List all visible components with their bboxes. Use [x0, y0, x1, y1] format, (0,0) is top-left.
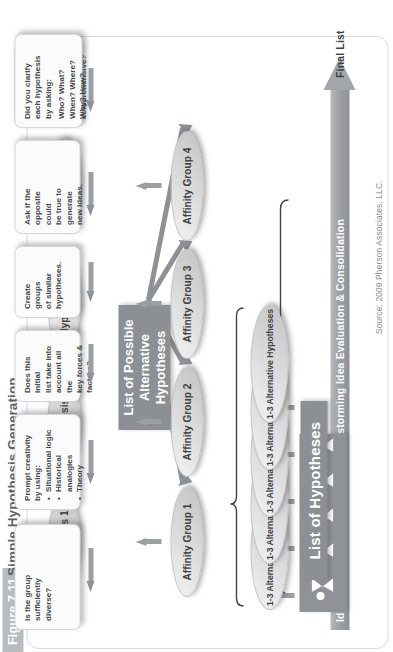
alternative-hypotheses-oval: 1-3 Alternative Hypotheses: [250, 305, 288, 423]
callout-line: hypotheses.: [53, 255, 63, 309]
oval-label: 1-3 Alternative Hypotheses: [264, 309, 274, 419]
callout-line: Create: [22, 255, 32, 309]
callout-line: Prompt creativity: [22, 423, 32, 501]
callout-line: key forces &: [74, 339, 84, 393]
callout-line: by asking:: [43, 43, 53, 119]
oval-label: Affinity Group 3: [181, 266, 192, 343]
callout-line: by using:: [32, 423, 42, 501]
up-arrow: [135, 417, 161, 426]
callout-pointer-arrow: [86, 172, 95, 216]
callout-line: generate: [64, 149, 74, 225]
affinity-group-oval: Affinity Group 1: [170, 487, 203, 597]
callout-bullet: Theory: [74, 423, 84, 492]
up-arrow: [135, 537, 161, 546]
callout-line: Does this initial: [22, 339, 43, 393]
callout-line: When? Where?: [67, 43, 77, 119]
callout-line: Ask if the: [22, 149, 32, 225]
callout-line: Who? What?: [56, 43, 66, 119]
callout-line: of similar: [43, 255, 53, 309]
possible-alternative-hypotheses-box: List of Possible Alternative Hypotheses: [118, 305, 170, 430]
callout-bullet: Historical analogies: [53, 423, 74, 492]
callout-opposite-test: Ask if the opposite could be true to gen…: [14, 140, 80, 234]
callout-line: account all the: [53, 339, 74, 393]
callout-bullet-list: Situational logic Historical analogies T…: [43, 423, 85, 501]
phase-label-final-list: Final List: [331, 30, 348, 78]
callout-prompt-creativity: Prompt creativity by using: Situational …: [14, 414, 80, 510]
callout-pointer-arrow: [86, 68, 95, 112]
callout-group-diversity: Is the group sufficiently diverse?: [14, 524, 80, 630]
callout-pointer-arrow: [86, 548, 95, 592]
up-arrow: [135, 181, 161, 190]
callout-line: be true to: [53, 149, 63, 225]
affinity-group-oval: Affinity Group 2: [170, 367, 203, 477]
oval-label: Affinity Group 4: [181, 148, 192, 225]
box-line-1: List of Possible: [120, 305, 136, 430]
callout-bullet: Situational logic: [43, 423, 53, 492]
callout-create-groups: Create groups of similar hypotheses.: [14, 246, 80, 318]
callout-pointer-arrow: [86, 262, 95, 302]
callout-line: each hypothesis: [32, 43, 42, 119]
affinity-group-oval: Affinity Group 3: [170, 249, 203, 359]
up-arrow: [135, 299, 161, 308]
callout-line: Did you clarify: [22, 43, 32, 119]
box-label: List of Hypotheses: [305, 422, 322, 560]
box-line-2: Alternative Hypotheses: [136, 305, 168, 430]
source-note: Source: 2009 Pherson Associates, LLC.: [373, 34, 383, 334]
callout-initial-list-check: Does this initial list take into account…: [14, 330, 80, 402]
oval-label: Affinity Group 1: [181, 504, 192, 581]
callout-pointer-arrow: [86, 440, 95, 484]
callout-line: could: [43, 149, 53, 225]
callout-line: opposite: [32, 149, 42, 225]
callout-pointer-arrow: [86, 344, 95, 384]
phase-label-idea-evaluation: Idea Evaluation & Consolidation: [331, 219, 348, 384]
callout-line: groups: [32, 255, 42, 309]
callout-line: diverse?: [43, 533, 53, 621]
callout-line: Is the group: [22, 533, 32, 621]
figure-canvas: Figure 7.11 Simple Hypothesis Generation…: [0, 0, 393, 652]
person-icon: [311, 578, 333, 600]
callout-clarify-hypotheses: Did you clarify each hypothesis by askin…: [14, 34, 82, 128]
callout-line: list take into: [43, 339, 53, 393]
callout-line: sufficiently: [32, 533, 42, 621]
oval-label: Affinity Group 2: [181, 384, 192, 461]
affinity-group-oval: Affinity Group 4: [170, 131, 203, 241]
callout-line: new ideas.: [74, 149, 84, 225]
final-hypotheses-list-box: List of Hypotheses: [300, 401, 327, 580]
